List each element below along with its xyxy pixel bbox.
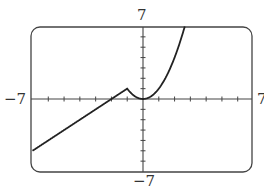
x-min-label: −7 <box>4 92 26 107</box>
x-max-label: 7 <box>257 92 264 107</box>
function-curve <box>33 27 185 151</box>
y-max-label: 7 <box>137 8 147 23</box>
y-min-label: −7 <box>133 174 155 189</box>
graph-plot <box>0 0 264 189</box>
